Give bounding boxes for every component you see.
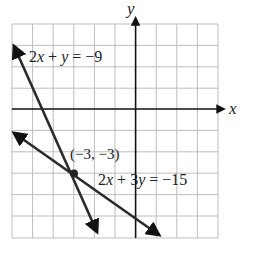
coordinate-graph: x y 2x + y = −9 (−3, −3) 2x + 3y = −15 [0, 0, 255, 255]
equation-2-label: 2x + 3y = −15 [98, 171, 187, 189]
line-2x-plus-y-eq-neg9 [14, 46, 97, 232]
x-axis-label: x [228, 99, 237, 118]
y-axis-label: y [125, 0, 135, 18]
intersection-point [70, 170, 78, 178]
point-label: (−3, −3) [70, 146, 119, 163]
equation-1-label: 2x + y = −9 [29, 48, 102, 66]
